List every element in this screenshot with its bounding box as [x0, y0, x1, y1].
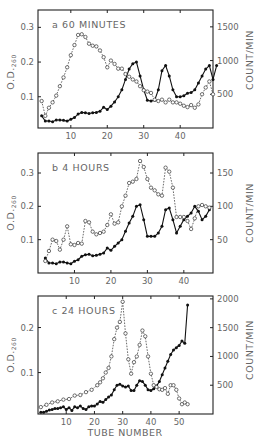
figure-canvas: a 60 MINUTES 102030400.10.20.35001000150… — [0, 0, 263, 440]
od-point — [68, 406, 71, 409]
od-point — [77, 258, 80, 261]
panel-b-4-hours: b 4 HOURS 102030400.10.20.350100150 O.D.… — [5, 153, 255, 286]
x-tick-label: 20 — [102, 131, 113, 141]
od-point — [166, 360, 169, 363]
count-point — [142, 89, 145, 92]
od-point — [171, 88, 174, 91]
count-point — [110, 355, 113, 358]
count-point — [80, 242, 83, 245]
od-point — [48, 408, 51, 411]
od-point — [40, 114, 43, 117]
count-point — [138, 343, 141, 346]
count-point — [157, 193, 160, 196]
count-point — [172, 384, 175, 387]
count-point — [120, 205, 123, 208]
panel-b-title: b 4 HOURS — [52, 162, 110, 173]
od-point — [113, 100, 116, 103]
count-point — [129, 372, 132, 375]
count-point — [76, 33, 79, 36]
count-point — [124, 332, 127, 335]
y-right-tick-label: 50 — [217, 235, 228, 245]
count-point — [144, 335, 147, 338]
count-point — [166, 392, 169, 395]
od-point — [149, 389, 152, 392]
od-point — [144, 384, 147, 387]
count-point — [84, 219, 87, 222]
figure: a 60 MINUTES 102030400.10.20.35001000150… — [0, 0, 263, 440]
count-point — [168, 98, 171, 101]
od-point — [90, 404, 93, 407]
od-point — [180, 340, 183, 343]
od-point — [117, 95, 120, 98]
panel-b-series — [44, 159, 211, 265]
y-right-tick-label: 150 — [217, 168, 233, 178]
count-point — [131, 180, 134, 183]
od-point — [179, 95, 182, 98]
count-point — [138, 84, 141, 87]
count-point — [98, 49, 101, 52]
count-point — [106, 223, 109, 226]
count-point — [98, 231, 101, 234]
od-point — [91, 254, 94, 257]
od-point — [88, 253, 91, 256]
od-point — [160, 225, 163, 228]
x-tick-label: 40 — [175, 131, 186, 141]
od-point — [99, 400, 102, 403]
od-point — [102, 252, 105, 255]
od-point — [62, 119, 65, 122]
count-point — [79, 393, 82, 396]
od-point — [168, 74, 171, 77]
count-point — [160, 98, 163, 101]
count-point — [153, 98, 156, 101]
od-point — [93, 404, 96, 407]
count-point — [73, 394, 76, 397]
x-tick-label: 20 — [106, 276, 117, 286]
od-point — [109, 249, 112, 252]
count-point — [45, 403, 48, 406]
od-point — [182, 94, 185, 97]
count-point — [163, 386, 166, 389]
od-point — [215, 64, 218, 67]
od-point — [51, 408, 54, 411]
count-point — [95, 233, 98, 236]
od-point — [73, 260, 76, 263]
od-point — [160, 69, 163, 72]
od-point — [84, 408, 87, 411]
count-point — [51, 238, 54, 241]
od-point — [70, 409, 73, 412]
count-point — [121, 300, 124, 303]
panel-b-right-axis-label: COUNT/MIN — [244, 183, 255, 243]
od-point — [153, 235, 156, 238]
od-point — [131, 215, 134, 218]
panel-a-left-axis-label: O.D.260 — [5, 54, 17, 89]
count-point — [132, 360, 135, 363]
od-point — [109, 105, 112, 108]
od-point — [59, 406, 62, 409]
count-point — [146, 355, 149, 358]
od-point — [80, 111, 83, 114]
y-right-tick-label: 500 — [217, 89, 233, 99]
y-left-tick-label: 0.1 — [20, 92, 34, 102]
x-tick-label: 20 — [89, 417, 100, 427]
x-tick-label: 40 — [178, 276, 189, 286]
od-point — [132, 389, 135, 392]
count-point — [208, 206, 211, 209]
count-point — [50, 401, 53, 404]
count-point — [39, 405, 42, 408]
od-line — [41, 305, 188, 412]
count-point — [115, 326, 118, 329]
od-point — [76, 406, 79, 409]
count-line — [42, 34, 213, 116]
y-left-tick-label: 0.2 — [20, 57, 34, 67]
count-point — [65, 225, 68, 228]
y-left-tick-label: 0.3 — [20, 22, 34, 32]
count-point — [204, 205, 207, 208]
count-point — [197, 103, 200, 106]
od-point — [101, 401, 104, 404]
od-point — [186, 92, 189, 95]
od-point — [135, 205, 138, 208]
x-tick-label: 30 — [117, 417, 128, 427]
od-point — [131, 62, 134, 65]
od-point — [51, 262, 54, 265]
x-axis-label: TUBE NUMBER — [86, 427, 162, 438]
